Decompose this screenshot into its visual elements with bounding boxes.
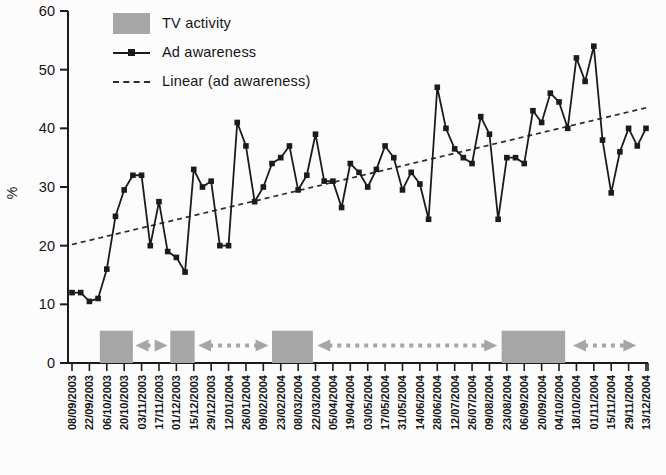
x-tick-label: 05/04/2004 [327,374,339,430]
x-tick-label: 20/10/2003 [118,375,130,430]
x-tick-label: 23/08/2004 [501,374,513,430]
data-point-marker [139,172,145,178]
data-point-marker [478,114,484,120]
chart-canvas: 010203040506008/09/200322/09/200306/10/2… [0,0,666,475]
data-point-marker [313,131,319,137]
legend-label: Ad awareness [162,44,256,60]
data-point-marker [278,155,284,161]
data-point-marker [147,243,153,249]
data-point-marker [434,84,440,90]
data-point-marker [104,266,110,272]
data-point-marker [426,216,432,222]
x-tick-label: 03/05/2004 [362,374,374,430]
data-point-marker [521,161,527,167]
data-point-marker [374,167,380,173]
arrow-right-icon [256,339,269,351]
data-point-marker [339,205,345,211]
x-tick-label: 08/09/2003 [66,375,78,430]
data-point-marker [234,120,240,126]
data-point-marker [330,178,336,184]
chart-figure: 010203040506008/09/200322/09/200306/10/2… [0,0,666,475]
x-tick-label: 26/07/2004 [466,374,478,430]
x-tick-label: 01/11/2004 [588,374,600,429]
data-point-marker [635,143,641,149]
data-point-marker [191,167,197,173]
y-tick-label: 30 [39,179,55,195]
data-point-marker [469,161,475,167]
data-point-marker [504,155,510,161]
y-tick-label: 40 [39,120,55,136]
data-point-marker [174,255,180,261]
x-tick-label: 15/11/2004 [605,374,617,429]
data-point-marker [130,172,136,178]
line-marker-swatch-icon [113,42,150,63]
data-point-marker [261,184,267,190]
data-point-marker [643,126,649,132]
data-point-marker [304,172,310,178]
x-tick-label: 12/01/2004 [223,374,235,430]
data-point-marker [452,146,458,152]
data-point-marker [182,269,188,275]
x-tick-label: 09/02/2004 [257,374,269,430]
x-tick-label: 22/09/2003 [83,375,95,430]
dashed-line-swatch-icon [113,71,150,92]
data-point-marker [495,216,501,222]
x-tick-label: 17/05/2004 [379,374,391,430]
x-tick-label: 19/04/2004 [344,374,356,430]
data-point-marker [617,149,623,155]
x-tick-label: 29/12/2003 [205,375,217,430]
data-point-marker [574,55,580,61]
x-tick-label: 08/03/2004 [292,374,304,430]
data-point-marker [95,296,101,302]
data-point-marker [226,243,232,249]
data-point-marker [417,181,423,187]
data-point-marker [243,143,249,149]
x-tick-label: 12/07/2004 [449,374,461,430]
data-point-marker [400,187,406,193]
data-point-marker [165,249,171,255]
data-point-marker [382,143,388,149]
x-tick-label: 09/08/2004 [483,374,495,430]
y-tick-label: 10 [39,296,55,312]
legend-item-ad-awareness: Ad awareness [113,41,310,63]
data-point-marker [443,126,449,132]
data-point-marker [600,137,606,143]
x-tick-label: 22/03/2004 [310,374,322,430]
data-point-marker [295,187,301,193]
data-point-marker [217,243,223,249]
tv-activity-block [502,331,565,363]
data-point-marker [487,131,493,137]
data-point-marker [356,170,362,176]
data-point-marker [348,161,354,167]
data-point-marker [626,126,632,132]
legend: TV activity Ad awareness Linear (ad awar… [113,12,310,92]
data-point-marker [208,178,214,184]
data-point-marker [78,290,84,296]
legend-item-linear: Linear (ad awareness) [113,70,310,92]
x-tick-label: 28/06/2004 [431,374,443,430]
x-tick-label: 17/11/2003 [153,375,165,429]
x-tick-label: 03/11/2003 [136,375,148,429]
x-tick-label: 15/12/2003 [188,375,200,430]
tv-activity-block [100,331,133,363]
data-point-marker [539,120,545,126]
data-point-marker [461,155,467,161]
data-point-marker [252,199,258,205]
data-point-marker [591,43,597,49]
arrow-left-icon [317,339,330,351]
data-point-marker [565,126,571,132]
x-tick-label: 31/05/2004 [396,374,408,430]
x-tick-label: 14/06/2004 [414,374,426,430]
data-point-marker [582,79,588,85]
data-point-marker [156,199,162,205]
arrow-right-icon [484,339,497,351]
tv-activity-block [170,331,194,363]
data-point-marker [121,187,127,193]
tv-activity-block [272,331,313,363]
legend-item-tv-activity: TV activity [113,12,310,34]
data-point-marker [287,143,293,149]
arrow-right-icon [623,339,636,351]
y-tick-label: 20 [39,238,55,254]
legend-label: TV activity [162,15,231,31]
data-point-marker [200,184,206,190]
